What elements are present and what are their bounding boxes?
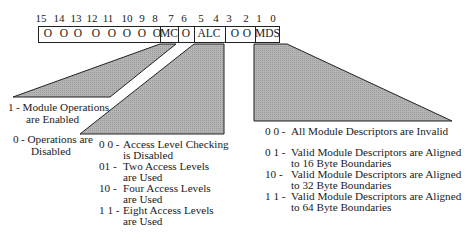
alc-code-10: 10 - xyxy=(99,183,117,195)
bit-3-value: O xyxy=(229,26,241,43)
bit-15-value: O xyxy=(42,26,54,43)
bit-13-value: O xyxy=(72,26,84,43)
bit-6-value: O xyxy=(178,26,194,43)
alc-code-11: 1 1 - xyxy=(99,205,120,217)
mds-cont-11: to 64 Byte Boundaries xyxy=(291,202,391,214)
bit-9-value: O xyxy=(136,26,148,43)
bit-14-value: O xyxy=(58,26,70,43)
divider-alc-right xyxy=(225,26,226,43)
mds-callout-shape xyxy=(254,44,452,121)
mc-field-label: MC xyxy=(160,26,178,43)
mds-code-00: 0 0 - xyxy=(265,126,286,138)
mc-enabled-cont: are Enabled xyxy=(26,114,79,126)
mc-enabled-text: - Module Operations xyxy=(16,102,109,114)
mds-code-10: 10 - xyxy=(265,169,283,181)
alc-code-00: 0 0 - xyxy=(99,139,120,151)
alc-code-01: 01 - xyxy=(99,161,117,173)
mc-disabled-cont: Disabled xyxy=(31,146,71,158)
bit-10-value: O xyxy=(121,26,133,43)
mds-text-00: All Module Descriptors are Invalid xyxy=(291,126,448,138)
mds-field-label: MDS xyxy=(255,26,280,43)
mds-code-11: 1 1 - xyxy=(265,191,286,203)
mc-enabled-code: 1 xyxy=(8,102,14,114)
mc-disabled-text: - Operations are xyxy=(21,134,93,146)
bit-12-value: O xyxy=(90,26,102,43)
bit-2-value: O xyxy=(241,26,253,43)
mds-code-01: 0 1 - xyxy=(265,147,286,159)
mc-disabled-code: 0 xyxy=(13,134,19,146)
bit-11-value: O xyxy=(106,26,118,43)
alc-cont-11: are Used xyxy=(123,216,162,228)
alc-field-label: ALC xyxy=(194,26,224,43)
